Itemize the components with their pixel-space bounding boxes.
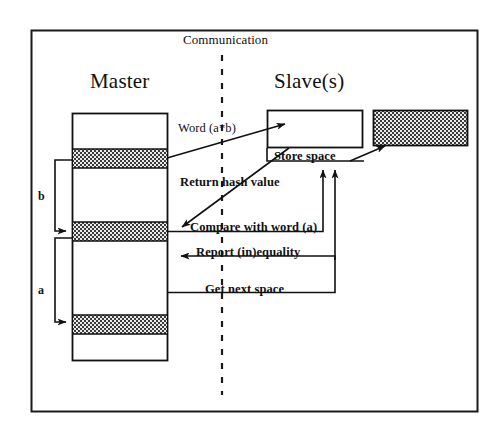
master-block-hatched-3	[73, 315, 167, 334]
master-memory-column	[73, 114, 168, 361]
figure-title: Communication	[183, 33, 268, 46]
master-block-hatched-1	[73, 149, 167, 168]
message-label-report: Report (in)equality	[196, 246, 300, 259]
bracket-a	[55, 238, 72, 322]
bracket-b	[55, 160, 72, 231]
message-label-word: Word (a*b)	[178, 122, 236, 135]
bracket-label-b: b	[38, 190, 45, 202]
bracket-label-a: a	[38, 284, 44, 296]
diagram-vector-layer	[0, 0, 500, 437]
figure-canvas: Communication Master Slave(s) Word (a*b)…	[0, 0, 500, 437]
message-label-compare: Compare with word (a)	[190, 221, 317, 234]
slave-store-space-box	[268, 111, 363, 148]
slave-filled-space-box	[374, 111, 468, 146]
message-label-get-next-space: Get next space	[205, 283, 284, 296]
header-master: Master	[90, 71, 150, 92]
header-slave: Slave(s)	[274, 71, 344, 92]
label-store-space: Store space	[274, 150, 336, 163]
master-block-hatched-2	[73, 222, 167, 241]
message-label-return-hash: Return hash value	[180, 176, 280, 189]
